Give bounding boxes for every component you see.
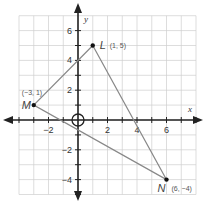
x-axis-left-arrow-icon	[3, 116, 13, 124]
vertex-point-L	[91, 43, 95, 47]
vertex-name-L: L	[100, 39, 106, 51]
y-tick-label: 2	[67, 85, 72, 95]
x-axis-label: x	[187, 104, 192, 114]
y-tick-label: 6	[67, 26, 72, 36]
x-tick-label: 6	[164, 125, 169, 135]
y-axis-label: y	[83, 14, 88, 24]
x-axis-right-arrow-icon	[193, 116, 203, 124]
grid-lines	[19, 16, 196, 195]
triangle-LMN	[34, 46, 167, 180]
vertex-name-N: N	[158, 182, 166, 194]
y-axis-up-arrow-icon	[74, 3, 82, 13]
vertex-name-M: M	[22, 99, 32, 111]
y-tick-label: −4	[62, 175, 72, 185]
y-axis-down-arrow-icon	[74, 191, 82, 201]
axes: x y	[3, 3, 203, 201]
vertex-point-M	[32, 103, 36, 107]
y-tick-label: −2	[62, 145, 72, 155]
x-tick-label: 2	[105, 125, 110, 135]
vertex-coord-L: (1, 5)	[110, 42, 126, 50]
y-tick-label: 4	[67, 55, 72, 65]
coordinate-plane: x y −2246642−2−4 L(1, 5)M(−3, 1)N(6, −4)	[0, 0, 207, 204]
x-tick-label: −2	[43, 125, 53, 135]
vertex-coord-N: (6, −4)	[172, 185, 192, 193]
vertex-coord-M: (−3, 1)	[22, 89, 42, 97]
